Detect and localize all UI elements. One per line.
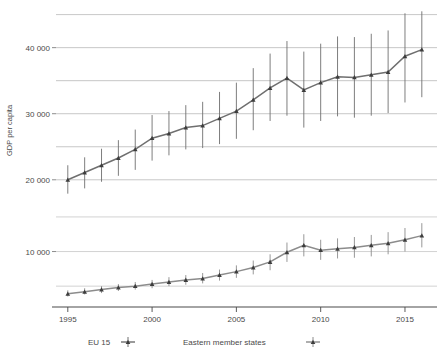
series-line	[68, 236, 422, 294]
y-tick-label-upper: 20 000	[26, 176, 51, 185]
data-point-marker	[285, 76, 290, 80]
axis-group: 20 00030 00040 00010 0001995200020052010…	[5, 44, 437, 324]
legend-label-2: Eastern member states	[183, 338, 266, 347]
gridlines-group	[56, 15, 437, 287]
x-tick-label: 2005	[227, 315, 245, 324]
legend-label-1: EU 15	[88, 338, 111, 347]
series-eu-15	[66, 11, 425, 193]
y-tick-label-upper: 30 000	[26, 110, 51, 119]
data-group	[66, 11, 425, 296]
y-tick-label-upper: 40 000	[26, 44, 51, 53]
y-tick-label-lower: 10 000	[26, 248, 51, 257]
x-tick-label: 2010	[312, 315, 330, 324]
legend: EU 15Eastern member states	[88, 337, 320, 347]
y-axis-title: GDP per capita	[5, 104, 14, 156]
x-tick-label: 1995	[59, 315, 77, 324]
x-tick-label: 2000	[143, 315, 161, 324]
series-eastern-member-states	[66, 223, 425, 296]
chart-container: 20 00030 00040 00010 0001995200020052010…	[0, 0, 442, 356]
gdp-per-capita-chart: 20 00030 00040 00010 0001995200020052010…	[0, 0, 442, 356]
x-tick-label: 2015	[396, 315, 414, 324]
series-line	[68, 50, 422, 180]
